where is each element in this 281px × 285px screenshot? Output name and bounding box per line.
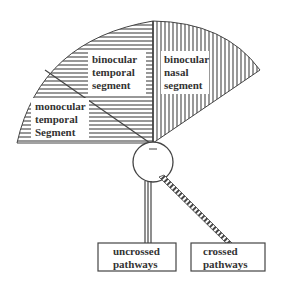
uncrossed-pathways-label: uncrossed pathways	[113, 245, 163, 270]
crossed-pathway-line	[159, 175, 232, 243]
eye-icon	[133, 142, 173, 182]
uncrossed-pathway-line	[145, 181, 151, 243]
visual-field-diagram: binocular temporal segment binocular nas…	[0, 0, 281, 285]
